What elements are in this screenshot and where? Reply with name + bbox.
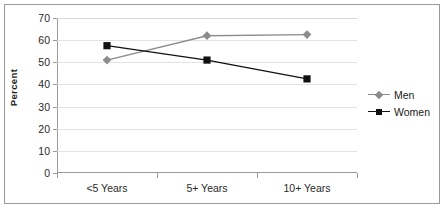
legend-item-men[interactable]: Men	[368, 86, 438, 103]
y-tick-label: 50	[38, 56, 50, 68]
y-tick-label: 70	[38, 12, 50, 24]
data-point-women	[303, 75, 310, 82]
y-tick-label: 40	[38, 78, 50, 90]
y-tick-label: 20	[38, 123, 50, 135]
x-tick-divider	[57, 173, 58, 178]
x-tick-label: <5 Years	[86, 182, 127, 194]
legend-swatch-icon	[368, 106, 390, 117]
y-tick-label: 60	[38, 34, 50, 46]
legend-label: Men	[394, 89, 414, 101]
x-tick-label: 10+ Years	[283, 182, 330, 194]
data-point-men	[303, 30, 312, 39]
chart-legend: MenWomen	[368, 86, 438, 120]
data-point-women	[103, 42, 110, 49]
legend-label: Women	[394, 106, 430, 118]
y-tick-label: 0	[44, 167, 50, 179]
data-point-women	[203, 56, 210, 63]
legend-swatch-icon	[368, 89, 390, 100]
chart-figure: Percent 010203040506070 <5 Years5+ Years…	[0, 0, 444, 209]
x-tick-label: 5+ Years	[186, 182, 227, 194]
series-layer	[57, 18, 357, 173]
x-tick-divider	[357, 173, 358, 178]
legend-item-women[interactable]: Women	[368, 103, 438, 120]
y-tick-label: 30	[38, 101, 50, 113]
plot-area: 010203040506070 <5 Years5+ Years10+ Year…	[57, 18, 357, 173]
legend-marker-square-icon	[376, 109, 382, 115]
y-tick-label: 10	[38, 145, 50, 157]
data-point-men	[103, 56, 112, 65]
y-axis-title: Percent	[8, 53, 19, 123]
x-tick-divider	[157, 173, 158, 178]
legend-marker-diamond-icon	[375, 91, 383, 99]
x-tick-divider	[257, 173, 258, 178]
data-point-men	[203, 31, 212, 40]
